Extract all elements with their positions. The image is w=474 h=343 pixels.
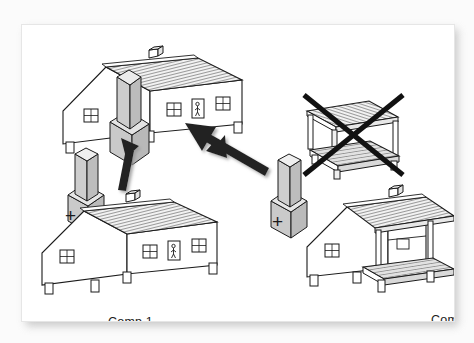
plus-sign-right: + (272, 212, 283, 231)
illustration-card: + + Comp 1 Comp 2 (21, 24, 455, 322)
arrow-up-left-from-comp2 (185, 123, 269, 176)
figure-drawing (22, 25, 454, 321)
figure-scene: + + Comp 1 Comp 2 (0, 0, 474, 343)
crossed-out-porch-structure (304, 95, 403, 179)
comp1-label: Comp 1 (108, 315, 153, 322)
comp2-label: Comp 2 (431, 313, 455, 322)
comp2-house (307, 185, 454, 292)
plus-sign-left: + (65, 206, 76, 225)
